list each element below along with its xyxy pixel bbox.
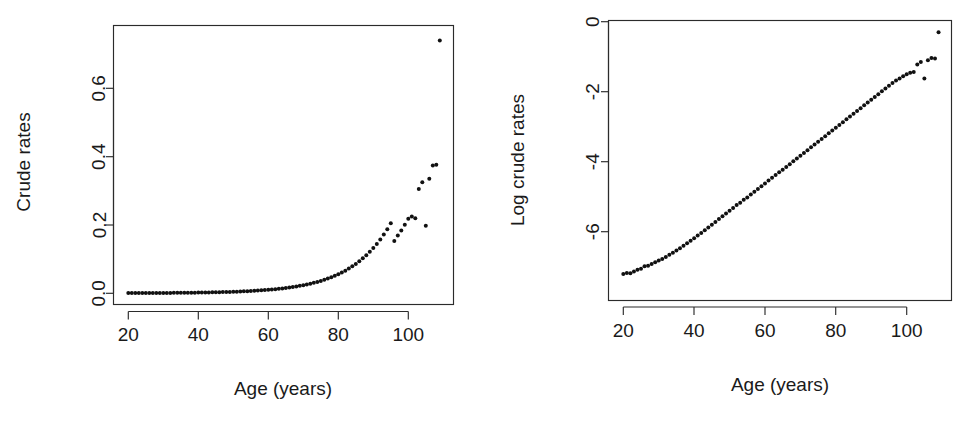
data-point — [406, 217, 410, 221]
data-point — [805, 148, 809, 152]
data-point — [284, 286, 288, 290]
plot-frame — [609, 21, 952, 301]
x-tick-label-100: 100 — [891, 320, 923, 341]
data-point — [333, 274, 337, 278]
data-point — [235, 290, 239, 294]
data-point — [291, 285, 295, 289]
y-tick-label-0.2: 0.2 — [89, 212, 110, 238]
data-point — [699, 231, 703, 235]
y-axis-right: 0 -2 -4 -6 — [583, 16, 609, 240]
data-point — [749, 193, 753, 197]
data-point — [873, 95, 877, 99]
data-point — [696, 234, 700, 238]
scatter-points — [621, 30, 940, 276]
x-axis-title: Age (years) — [731, 374, 829, 395]
data-point — [308, 282, 312, 286]
figure-container: 0.6 0.4 0.2 0.0 20 40 60 80 100 Age (y — [0, 0, 980, 423]
data-point — [200, 291, 204, 295]
data-point — [434, 163, 438, 167]
y-tick-label-neg6: -6 — [583, 223, 604, 240]
data-point — [820, 137, 824, 141]
data-point — [189, 291, 193, 295]
data-point — [322, 278, 326, 282]
data-point — [671, 251, 675, 255]
data-point — [710, 223, 714, 227]
y-tick-label-0.0: 0.0 — [89, 280, 110, 306]
x-axis-left: 20 40 60 80 100 — [118, 312, 424, 346]
data-point — [841, 120, 845, 124]
data-point — [901, 74, 905, 78]
data-point — [937, 30, 941, 34]
data-point — [357, 259, 361, 263]
data-point — [287, 286, 291, 290]
data-point — [165, 291, 169, 295]
data-point — [738, 201, 742, 205]
data-point — [417, 187, 421, 191]
data-point — [837, 123, 841, 127]
data-point — [158, 291, 162, 295]
data-point — [632, 270, 636, 274]
data-point — [210, 290, 214, 294]
data-point — [844, 117, 848, 121]
data-point — [830, 129, 834, 133]
data-point — [912, 70, 916, 74]
data-point — [438, 38, 442, 42]
data-point — [809, 145, 813, 149]
data-point — [231, 290, 235, 294]
data-point — [375, 242, 379, 246]
data-point — [852, 112, 856, 116]
data-point — [703, 228, 707, 232]
data-point — [866, 101, 870, 105]
data-point — [140, 291, 144, 295]
data-point — [929, 56, 933, 60]
data-point — [193, 291, 197, 295]
data-point — [256, 289, 260, 293]
data-point — [175, 291, 179, 295]
data-point — [720, 214, 724, 218]
y-tick-label-neg4: -4 — [583, 153, 604, 170]
data-point — [639, 267, 643, 271]
data-point — [752, 190, 756, 194]
data-point — [396, 234, 400, 238]
y-tick-label-0.4: 0.4 — [89, 143, 110, 170]
log-crude-rates-svg: 0 -2 -4 -6 20 40 60 80 100 Age (years) — [490, 0, 980, 423]
data-point — [126, 291, 130, 295]
data-point — [266, 288, 270, 292]
data-point — [154, 291, 158, 295]
data-point — [813, 143, 817, 147]
data-point — [848, 115, 852, 119]
data-point — [319, 279, 323, 283]
data-point — [922, 76, 926, 80]
data-point — [798, 154, 802, 158]
x-tick-label-100: 100 — [392, 324, 424, 345]
data-point — [660, 257, 664, 261]
data-point — [682, 244, 686, 248]
data-point — [186, 291, 190, 295]
data-point — [674, 249, 678, 253]
x-tick-label-60: 60 — [258, 324, 279, 345]
data-point — [420, 180, 424, 184]
data-point — [259, 288, 263, 292]
data-point — [273, 287, 277, 291]
data-point — [350, 264, 354, 268]
data-point — [336, 272, 340, 276]
data-point — [728, 209, 732, 213]
data-point — [182, 291, 186, 295]
data-point — [179, 291, 183, 295]
data-point — [347, 267, 351, 271]
data-point — [653, 260, 657, 264]
x-tick-label-60: 60 — [754, 320, 775, 341]
crude-rates-panel: 0.6 0.4 0.2 0.0 20 40 60 80 100 Age (y — [0, 0, 490, 423]
data-point — [144, 291, 148, 295]
data-point — [280, 286, 284, 290]
data-point — [368, 250, 372, 254]
data-point — [329, 275, 333, 279]
data-point — [294, 284, 298, 288]
data-point — [855, 109, 859, 113]
data-point — [382, 233, 386, 237]
data-point — [133, 291, 137, 295]
data-point — [724, 212, 728, 216]
data-point — [735, 203, 739, 207]
data-point — [385, 227, 389, 231]
data-point — [364, 253, 368, 257]
